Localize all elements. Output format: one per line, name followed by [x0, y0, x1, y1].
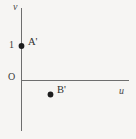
v-axis-label: v: [13, 2, 17, 12]
point-a-prime-label: A': [28, 37, 37, 48]
point-b-prime-marker: [48, 92, 54, 98]
origin-label: O: [8, 72, 15, 82]
v-axis-tick-label-1: 1: [9, 40, 14, 50]
point-b-prime-label: B': [57, 85, 66, 96]
point-a-prime-marker: [19, 43, 25, 49]
coordinate-plane-figure: v u O 1 A' B': [0, 0, 136, 139]
u-axis-label: u: [119, 86, 124, 96]
axes-and-points-canvas: [0, 0, 136, 139]
